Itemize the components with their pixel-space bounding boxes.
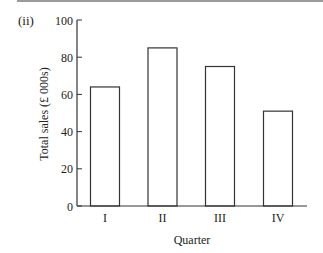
y-tick-label: 100 xyxy=(55,14,73,28)
x-tick-label: I xyxy=(103,211,107,225)
bar-IV xyxy=(264,111,293,206)
x-tick-label: III xyxy=(214,211,226,225)
x-tick-label: IV xyxy=(272,211,285,225)
x-tick-label: II xyxy=(159,211,167,225)
bars xyxy=(91,48,293,206)
y-axis-ticks: 020406080100 xyxy=(55,14,82,214)
y-tick-label: 80 xyxy=(61,51,73,65)
bar-II xyxy=(148,48,177,206)
y-tick-label: 0 xyxy=(67,200,73,214)
bar-I xyxy=(91,87,120,206)
bar-III xyxy=(206,67,235,207)
y-axis-label: Total sales (£ 000s) xyxy=(37,67,51,160)
x-axis-ticks: IIIIIIIV xyxy=(103,211,285,225)
y-tick-label: 20 xyxy=(61,162,73,176)
y-tick-label: 40 xyxy=(61,125,73,139)
x-axis-label: Quarter xyxy=(174,233,211,247)
y-tick-label: 60 xyxy=(61,88,73,102)
bar-chart: 020406080100 IIIIIIIV Quarter Total sale… xyxy=(0,0,323,253)
